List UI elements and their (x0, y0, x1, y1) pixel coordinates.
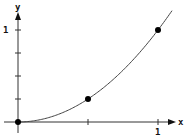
data-point (15, 119, 21, 125)
x-axis-arrow-icon (168, 119, 176, 125)
data-point (155, 27, 161, 33)
curve-line (18, 11, 172, 122)
axes (4, 12, 176, 133)
y-axis-label: y (15, 2, 21, 12)
tick-labels: 11 (3, 25, 160, 137)
y-axis-arrow-icon (15, 12, 21, 20)
y-tick-label: 1 (3, 25, 8, 35)
data-points (15, 27, 161, 125)
data-point (85, 96, 91, 102)
chart: x y 11 (0, 0, 186, 137)
x-tick-label: 1 (155, 127, 160, 137)
x-axis-label: x (178, 117, 184, 127)
